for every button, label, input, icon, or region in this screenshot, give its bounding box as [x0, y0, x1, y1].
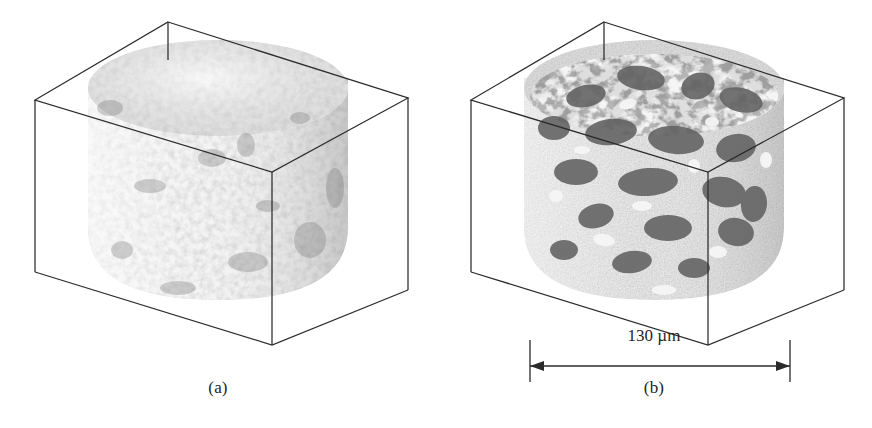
figure-root: (a) [0, 0, 872, 428]
arrow-head-right [776, 361, 790, 371]
figure-panel-a: (a) [0, 0, 436, 428]
tomography-volume-b [436, 0, 872, 360]
tomography-volume-a [0, 0, 436, 360]
panel-caption-a: (a) [0, 378, 436, 398]
scale-bar-label: 130 µm [436, 326, 872, 346]
panel-caption-b: (b) [436, 378, 872, 398]
figure-panel-b: 130 µm (b) [436, 0, 872, 428]
arrow-head-left [530, 361, 544, 371]
cylinder-top-a [88, 40, 348, 136]
